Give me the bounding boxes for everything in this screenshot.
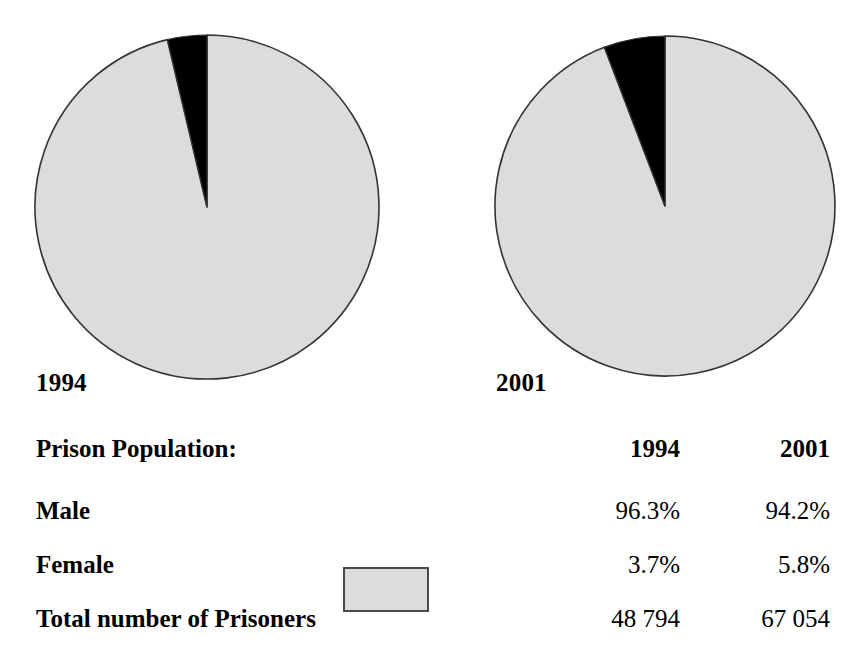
female-value-2001: 5.8%: [710, 550, 830, 580]
male-value-2001: 94.2%: [710, 496, 830, 526]
total-value-2001: 67 054: [710, 604, 830, 634]
pie-chart-area: 1994 2001: [0, 0, 859, 400]
total-value-1994: 48 794: [560, 604, 680, 634]
pie-2001: [495, 36, 835, 376]
male-value-1994: 96.3%: [560, 496, 680, 526]
table-title: Prison Population:: [36, 434, 237, 464]
pie-charts-svg: [0, 0, 859, 400]
table-row: Male 96.3% 94.2%: [0, 496, 859, 540]
table-row: Total number of Prisoners 48 794 67 054: [0, 604, 859, 648]
pie-caption-1994: 1994: [36, 370, 87, 395]
row-label-total: Total number of Prisoners: [36, 604, 316, 634]
pie-caption-2001: 2001: [496, 370, 547, 395]
row-label-female: Female: [36, 550, 114, 580]
pie-chart-figure: 1994 2001 Prison Population: 1994 2001 M…: [0, 0, 859, 662]
table-row: Female 3.7% 5.8%: [0, 550, 859, 594]
data-table: Prison Population: 1994 2001 Male 96.3% …: [0, 418, 859, 662]
column-header-1994: 1994: [560, 434, 680, 464]
female-value-1994: 3.7%: [560, 550, 680, 580]
pie-1994: [35, 35, 379, 379]
column-header-2001: 2001: [710, 434, 830, 464]
table-header-row: Prison Population: 1994 2001: [0, 434, 859, 478]
row-label-male: Male: [36, 496, 90, 526]
